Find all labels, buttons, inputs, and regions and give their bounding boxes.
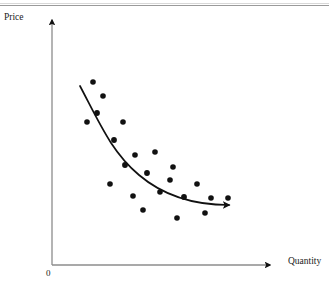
figure-container: Price Quantity 0	[0, 0, 329, 286]
data-point	[225, 195, 231, 201]
scatter-points	[84, 79, 231, 221]
fitted-curve	[80, 86, 229, 205]
data-point	[157, 189, 163, 195]
data-point	[140, 207, 146, 213]
data-point	[144, 170, 150, 176]
data-point	[208, 195, 214, 201]
data-point	[174, 215, 180, 221]
axes-group	[52, 20, 270, 265]
data-point	[202, 210, 208, 216]
data-point	[94, 110, 100, 116]
origin-label: 0	[46, 268, 51, 278]
data-point	[130, 193, 136, 199]
data-point	[100, 93, 106, 99]
data-point	[167, 177, 173, 183]
data-point	[84, 119, 90, 125]
data-point	[107, 181, 113, 187]
data-point	[90, 79, 96, 85]
demand-curve-plot	[0, 0, 329, 286]
data-point	[194, 181, 200, 187]
data-point	[132, 152, 138, 158]
y-axis-label: Price	[4, 12, 24, 22]
data-point	[120, 119, 126, 125]
data-point	[111, 137, 117, 143]
data-point	[152, 149, 158, 155]
data-point	[170, 164, 176, 170]
data-point	[122, 162, 128, 168]
x-axis-label: Quantity	[288, 256, 321, 266]
data-point	[181, 194, 187, 200]
